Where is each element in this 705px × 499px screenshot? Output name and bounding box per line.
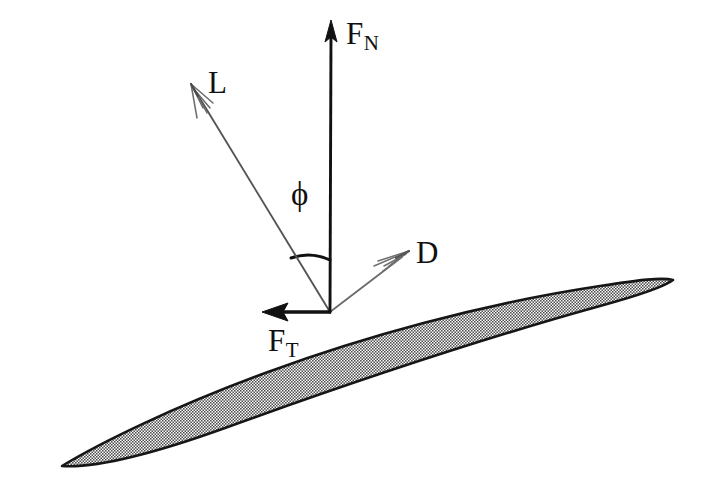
airfoil-blade-section <box>62 279 673 466</box>
label-tangential-force-subscript: T <box>286 338 299 362</box>
force-diagram-svg <box>0 0 705 499</box>
label-phi-symbol: ϕ <box>291 176 308 212</box>
label-normal-force-symbol: F <box>346 16 363 51</box>
label-normal-force-subscript: N <box>364 31 379 55</box>
figure-canvas: FN L ϕ D FT <box>0 0 705 499</box>
label-normal-force: FN <box>346 18 379 54</box>
drag-vector <box>330 251 409 312</box>
label-drag-symbol: D <box>416 235 438 270</box>
lift-vector <box>191 84 330 312</box>
label-lift-symbol: L <box>208 65 227 100</box>
label-tangential-force-symbol: F <box>268 323 285 358</box>
label-tangential-force: FT <box>268 325 299 361</box>
vector-origin <box>328 310 331 313</box>
label-drag: D <box>416 237 438 268</box>
normal-force-vector <box>325 20 337 312</box>
tangential-force-vector <box>262 303 331 321</box>
label-lift: L <box>208 67 227 98</box>
label-phi-angle: ϕ <box>291 178 308 211</box>
